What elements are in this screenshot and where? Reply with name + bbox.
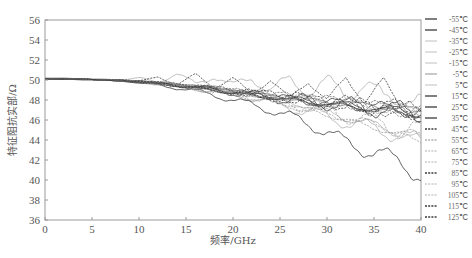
legend-label: -15℃ [449,59,468,68]
y-axis-title: 特征阻抗实部/Ω [6,84,18,156]
x-axis-title: 频率/GHz [210,234,255,246]
legend-label: 55℃ [452,136,469,145]
plot-area [45,20,421,220]
legend-item: -55℃ [425,15,468,24]
legend-item: 15℃ [425,92,468,101]
y-tick-label: 50 [29,74,41,86]
legend-item: 5℃ [425,81,468,90]
series-line [45,79,421,117]
legend-label: -45℃ [449,26,468,35]
legend-label: 105℃ [448,191,468,200]
series-line [45,79,421,137]
legend-label: 45℃ [452,125,469,134]
legend-label: -5℃ [453,70,468,79]
legend-item: 75℃ [425,158,468,167]
legend-label: 95℃ [452,180,469,189]
legend-item: -5℃ [425,70,468,79]
y-tick-label: 48 [29,94,41,106]
legend-item: 85℃ [425,169,468,178]
legend-label: 115℃ [448,202,468,211]
legend-label: -35℃ [449,37,468,46]
legend-label: -25℃ [449,48,468,57]
y-tick-label: 46 [29,114,41,126]
legend-label: 125℃ [448,213,468,222]
y-tick-label: 38 [29,194,41,206]
legend-label: 75℃ [452,158,469,167]
legend-item: 65℃ [425,147,468,156]
x-tick-label: 35 [369,223,381,235]
x-tick-label: 15 [181,223,193,235]
legend-item: 115℃ [425,202,468,211]
legend-label: 85℃ [452,169,469,178]
y-tick-label: 54 [29,34,41,46]
y-tick-label: 56 [29,14,41,26]
series-layer [45,73,421,181]
x-tick-label: 25 [275,223,287,235]
y-tick-label: 40 [29,174,41,186]
series-line [45,79,421,118]
series-line [45,79,421,118]
legend-item: 55℃ [425,136,468,145]
legend-item: -15℃ [425,59,468,68]
y-tick-label: 44 [29,134,41,146]
legend-item: 35℃ [425,114,468,123]
legend-label: 5℃ [455,81,468,90]
y-tick-label: 52 [29,54,40,66]
legend-item: 25℃ [425,103,468,112]
series-line [45,79,421,118]
legend-item: 105℃ [425,191,468,200]
legend-item: -25℃ [425,48,468,57]
legend-item: 45℃ [425,125,468,134]
legend-item: 95℃ [425,180,468,189]
x-tick-label: 30 [322,223,334,235]
legend-item: 125℃ [425,213,468,222]
legend-label: 35℃ [452,114,469,123]
x-tick-label: 20 [228,223,240,235]
legend-label: 15℃ [452,92,469,101]
x-tick-label: 0 [42,223,48,235]
legend-label: 65℃ [452,147,469,156]
y-tick-label: 42 [29,154,40,166]
series-line [45,78,421,138]
legend-label: 25℃ [452,103,469,112]
legend-item: -45℃ [425,26,468,35]
legend-item: -35℃ [425,37,468,46]
legend-label: -55℃ [449,15,468,24]
series-line [45,79,421,118]
legend: -55℃-45℃-35℃-25℃-15℃-5℃5℃15℃25℃35℃45℃55℃… [425,15,468,222]
x-tick-label: 10 [134,223,146,235]
x-tick-label: 40 [416,223,428,235]
x-tick-label: 5 [89,223,95,235]
chart: 3638404244464850525456 0510152025303540 … [0,0,472,258]
y-tick-label: 36 [29,214,41,226]
